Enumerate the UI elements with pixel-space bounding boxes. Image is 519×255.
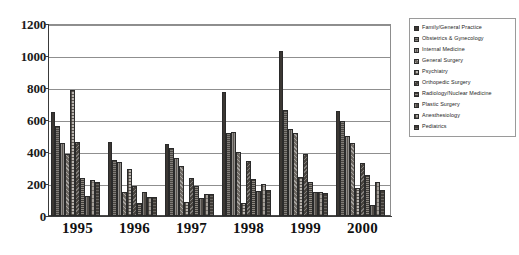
bar-cluster [336, 24, 386, 216]
bar-cluster [222, 24, 272, 216]
legend-swatch-icon [414, 92, 419, 97]
bar [251, 179, 256, 216]
y-axis-tick-label: 1000 [2, 50, 46, 63]
bar [298, 177, 303, 216]
x-axis-tick-label: 2000 [334, 220, 391, 237]
y-axis: 120010008006004002000 [0, 0, 46, 255]
legend-item: Internal Medicine [414, 45, 512, 55]
bar [288, 129, 293, 216]
y-axis-tick-label: 0 [2, 210, 46, 223]
x-axis-tick-label: 1998 [220, 220, 277, 237]
bar [345, 136, 350, 216]
bar [350, 143, 355, 216]
bar [137, 203, 142, 216]
y-axis-tick-label: 800 [2, 82, 46, 95]
legend-item: Orthopedic Surgery [414, 78, 512, 88]
bar [365, 175, 370, 216]
bar-cluster [108, 24, 158, 216]
bar [95, 182, 100, 216]
bar [336, 111, 341, 216]
bar [117, 162, 122, 216]
bar [360, 163, 365, 216]
x-axis-tick-label: 1997 [163, 220, 220, 237]
legend-swatch-icon [414, 37, 419, 42]
bar-chart-figure: 120010008006004002000 199519961997199819… [0, 0, 519, 255]
bar [174, 158, 179, 216]
bar [236, 152, 241, 216]
x-axis-line [48, 216, 392, 217]
bar [169, 148, 174, 216]
legend-item: Obstetrics & Gynecology [414, 34, 512, 44]
bar-cluster [51, 24, 101, 216]
bar [179, 166, 184, 216]
legend-item-label: Anesthesiology [422, 113, 460, 118]
x-axis: 199519961997199819992000 [49, 220, 391, 246]
bar [209, 194, 214, 216]
legend-item-label: General Surgery [422, 58, 463, 63]
legend-swatch-icon [414, 125, 419, 130]
legend-item: Plastic Surgery [414, 100, 512, 110]
legend-swatch-icon [414, 48, 419, 53]
bar [184, 202, 189, 216]
legend-swatch-icon [414, 70, 419, 75]
bar [142, 192, 147, 216]
legend-item-label: Orthopedic Surgery [422, 80, 471, 85]
bar [355, 188, 360, 216]
chart-legend: Family/General PracticeObstetrics & Gyne… [409, 18, 516, 137]
legend-item: Pediatrics [414, 122, 512, 132]
legend-item: Psychiatry [414, 67, 512, 77]
bar [147, 197, 152, 216]
bar [261, 184, 266, 216]
legend-item-label: Pediatrics [422, 124, 447, 129]
bars-layer [49, 24, 391, 216]
bar [75, 142, 80, 216]
legend-swatch-icon [414, 114, 419, 119]
bar [90, 180, 95, 216]
legend-item-label: Obstetrics & Gynecology [422, 36, 484, 41]
legend-swatch-icon [414, 26, 419, 31]
bar [293, 133, 298, 216]
bar [85, 196, 90, 216]
bar [303, 154, 308, 216]
bar-cluster [165, 24, 215, 216]
bar [51, 112, 56, 216]
bar [241, 203, 246, 216]
legend-swatch-icon [414, 81, 419, 86]
bar [189, 178, 194, 216]
bar [246, 161, 251, 216]
bar [380, 190, 385, 216]
y-axis-tick-label: 1200 [2, 18, 46, 31]
bar [370, 205, 375, 216]
legend-swatch-icon [414, 103, 419, 108]
legend-item: Radiology/Nuclear Medicine [414, 89, 512, 99]
y-axis-tick-label: 200 [2, 178, 46, 191]
bar [308, 182, 313, 216]
bar-cluster [279, 24, 329, 216]
legend-swatch-icon [414, 59, 419, 64]
bar [194, 186, 199, 216]
bar [313, 192, 318, 216]
bar [204, 194, 209, 216]
bar [165, 144, 170, 216]
bar [222, 92, 227, 216]
bar [231, 132, 236, 216]
bar [60, 143, 65, 216]
bar [122, 192, 127, 216]
bar [132, 186, 137, 216]
legend-item-label: Family/General Practice [422, 25, 482, 30]
bar [279, 51, 284, 216]
y-axis-tick-label: 400 [2, 146, 46, 159]
bar [112, 160, 117, 216]
bar [226, 133, 231, 216]
bar [318, 192, 323, 216]
bar [266, 190, 271, 216]
legend-item-label: Psychiatry [422, 69, 448, 74]
bar [65, 154, 70, 216]
legend-item-label: Plastic Surgery [422, 102, 460, 107]
legend-item-label: Internal Medicine [422, 47, 465, 52]
x-axis-tick-label: 1999 [277, 220, 334, 237]
x-axis-tick-label: 1995 [49, 220, 106, 237]
legend-item: Family/General Practice [414, 23, 512, 33]
bar [55, 126, 60, 216]
bar [127, 169, 132, 216]
